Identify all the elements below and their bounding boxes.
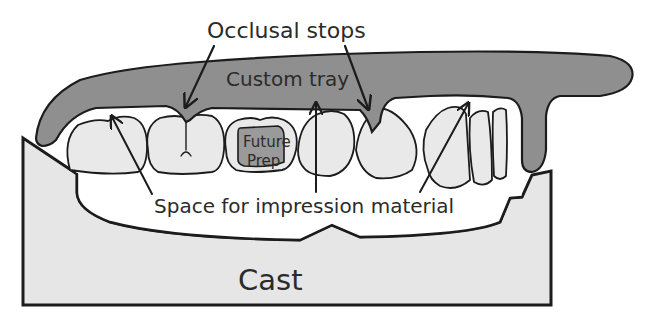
label-future-prep-2: Prep [247, 152, 280, 170]
tooth-incisor-2 [493, 108, 507, 179]
label-cast: Cast [238, 263, 303, 297]
label-future-prep-1: Future [243, 133, 291, 151]
dental-tray-diagram: Occlusal stops Custom tray Future Prep S… [0, 0, 670, 324]
label-custom-tray: Custom tray [226, 67, 349, 91]
label-occlusal-stops: Occlusal stops [207, 18, 366, 43]
label-space: Space for impression material [154, 194, 454, 218]
tooth-molar-1 [67, 117, 147, 174]
tooth-incisor-1 [470, 111, 493, 185]
